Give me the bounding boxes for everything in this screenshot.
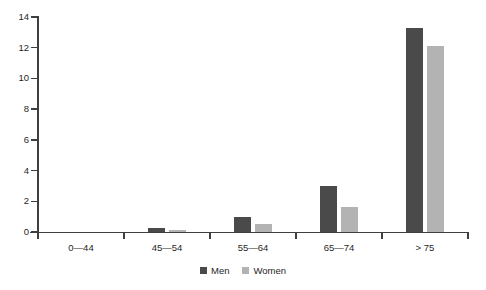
- legend-swatch-icon: [200, 267, 207, 274]
- bar-women-1: [169, 230, 186, 232]
- x-axis-tick: [381, 232, 382, 239]
- bar-women-4: [427, 46, 444, 232]
- y-axis-tick: [31, 170, 38, 171]
- x-axis-tick: [295, 232, 296, 239]
- bar-men-1: [148, 228, 165, 232]
- bar-chart: 02468101214 0—4445—5455—6465—74> 75 MenW…: [0, 0, 486, 290]
- legend-label: Women: [253, 266, 286, 276]
- bar-women-2: [255, 224, 272, 232]
- x-axis-tick: [123, 232, 124, 239]
- y-axis-tick: [31, 78, 38, 79]
- x-axis-tick: [209, 232, 210, 239]
- y-axis-label-text: 0: [3, 227, 29, 237]
- y-axis-tick: [31, 47, 38, 48]
- y-axis-label-text: 10: [3, 73, 29, 83]
- x-axis-tick-end: [467, 232, 468, 239]
- y-axis-label: 6: [0, 135, 29, 145]
- x-axis-tick-start: [37, 232, 38, 239]
- y-axis-label: 10: [0, 73, 29, 83]
- y-axis-label-text: 8: [3, 104, 29, 114]
- bar-men-3: [320, 186, 337, 232]
- y-axis-tick: [31, 201, 38, 202]
- y-axis-label: 14: [0, 12, 29, 22]
- x-axis-category-label: 55—64: [203, 243, 303, 253]
- legend-item-men[interactable]: Men: [200, 266, 229, 276]
- y-axis-label-text: 2: [3, 196, 29, 206]
- x-axis-category-label: > 75: [375, 243, 475, 253]
- x-axis-category-label: 45—54: [117, 243, 217, 253]
- x-axis-category-label: 0—44: [31, 243, 131, 253]
- y-axis-tick: [31, 108, 38, 109]
- chart-legend: MenWomen: [0, 266, 486, 276]
- y-axis-label: 0: [0, 227, 29, 237]
- y-axis-tick: [31, 139, 38, 140]
- y-axis-label: 8: [0, 104, 29, 114]
- bar-men-4: [406, 28, 423, 232]
- legend-swatch-icon: [242, 267, 249, 274]
- y-axis-label-text: 12: [3, 43, 29, 53]
- y-axis-label-text: 6: [3, 135, 29, 145]
- y-axis-label-text: 14: [3, 12, 29, 22]
- x-axis-category-label: 65—74: [289, 243, 389, 253]
- y-axis-label-text: 4: [3, 166, 29, 176]
- y-axis-label: 2: [0, 196, 29, 206]
- legend-label: Men: [211, 266, 229, 276]
- y-axis-tick: [31, 16, 38, 17]
- bar-women-3: [341, 207, 358, 232]
- y-axis-label: 4: [0, 166, 29, 176]
- bar-men-2: [234, 217, 251, 232]
- legend-item-women[interactable]: Women: [242, 266, 286, 276]
- y-axis-label: 12: [0, 43, 29, 53]
